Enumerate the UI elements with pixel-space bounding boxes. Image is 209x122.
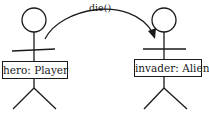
message-arrow: [45, 9, 156, 39]
actor-right-leg: [34, 88, 56, 109]
message-arc: [45, 9, 153, 39]
actor-hero-figure: [12, 8, 56, 109]
arrowhead-icon: [148, 28, 156, 39]
actor-left-leg: [144, 88, 164, 109]
actor-invader-label: invader: Alien: [134, 59, 202, 77]
actor-left-leg: [13, 88, 34, 109]
actor-right-leg: [164, 88, 187, 109]
actor-head: [22, 8, 46, 32]
message-label: die(): [89, 2, 111, 13]
actor-hero-label: hero: Player: [2, 61, 68, 79]
